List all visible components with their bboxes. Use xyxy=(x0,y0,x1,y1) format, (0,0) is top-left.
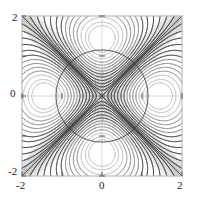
y-axis-tick-label-bottom: -2 xyxy=(8,166,17,177)
contour-plot-figure: 2 0 -2 -2 0 2 xyxy=(0,0,200,204)
x-axis-tick-label-mid: 0 xyxy=(99,180,105,191)
y-axis-tick-label-top: 2 xyxy=(12,12,18,23)
x-axis-tick-label-left: -2 xyxy=(16,180,25,191)
y-axis-tick-label-mid: 0 xyxy=(10,88,16,99)
plot-canvas xyxy=(0,0,200,204)
x-axis-tick-label-right: 2 xyxy=(177,180,183,191)
